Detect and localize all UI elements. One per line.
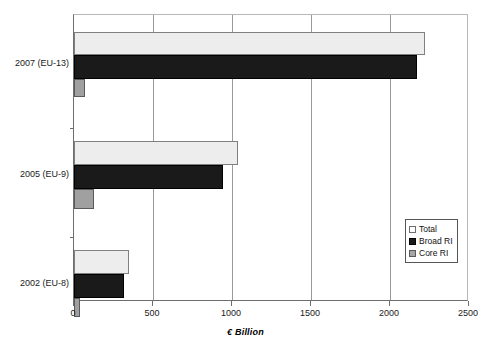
x-axis-title: € Billion [0, 327, 491, 337]
bar-chart: Total Broad RI Core RI 2007 (EU-13) 2005… [0, 0, 491, 350]
legend-swatch-broad-ri-icon [409, 238, 416, 245]
bar-2005-broad-ri [74, 165, 223, 189]
x-axis-tick-1000 [231, 301, 232, 306]
x-axis-label-500: 500 [132, 308, 172, 319]
legend-label-broad-ri: Broad RI [419, 236, 453, 246]
x-axis-label-2500: 2500 [448, 308, 488, 319]
x-axis-label-1500: 1500 [290, 308, 330, 319]
legend-label-core-ri: Core RI [419, 248, 448, 258]
bar-2005-total [74, 141, 238, 165]
x-axis-tick-500 [152, 301, 153, 306]
plot-area: Total Broad RI Core RI [73, 14, 468, 301]
legend-swatch-total-icon [409, 226, 416, 233]
legend-label-total: Total [419, 224, 437, 234]
y-axis-tick-1 [70, 128, 74, 129]
bar-2005-core-ri [74, 189, 94, 209]
legend-item-total: Total [409, 223, 454, 235]
bar-2002-total [74, 250, 129, 274]
y-axis-label-2002: 2002 (EU-8) [20, 278, 69, 288]
bar-2007-broad-ri [74, 55, 417, 79]
bar-2007-core-ri [74, 79, 85, 97]
legend: Total Broad RI Core RI [405, 219, 458, 263]
bar-2007-total [74, 32, 425, 55]
x-axis-label-1000: 1000 [211, 308, 251, 319]
y-axis-tick-2 [70, 237, 74, 238]
y-axis-label-2007: 2007 (EU-13) [15, 58, 69, 68]
x-axis-tick-0 [73, 301, 74, 306]
legend-item-core-ri: Core RI [409, 247, 454, 259]
x-axis-label-2000: 2000 [369, 308, 409, 319]
x-axis-tick-1500 [310, 301, 311, 306]
legend-item-broad-ri: Broad RI [409, 235, 454, 247]
y-axis-label-2005: 2005 (EU-9) [20, 169, 69, 179]
x-axis-tick-2000 [389, 301, 390, 306]
legend-swatch-core-ri-icon [409, 250, 416, 257]
y-axis-labels: 2007 (EU-13) 2005 (EU-9) 2002 (EU-8) [0, 14, 69, 301]
x-axis-tick-2500 [468, 301, 469, 306]
x-axis-label-0: 0 [53, 308, 93, 319]
bar-2002-broad-ri [74, 274, 124, 298]
